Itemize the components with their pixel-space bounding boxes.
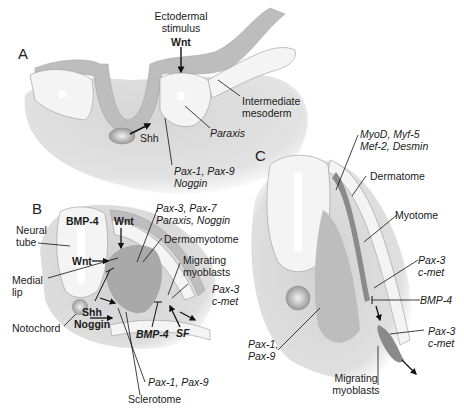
label-c-cmet-a: c-met bbox=[418, 266, 444, 278]
label-b-cmet: c-met bbox=[212, 295, 238, 307]
label-a-wnt: Wnt bbox=[171, 36, 191, 48]
label-a-noggin: Noggin bbox=[174, 177, 207, 189]
label-medial-lip-line1: Medial bbox=[12, 274, 43, 286]
label-b-bmp4-bottom: BMP-4 bbox=[136, 328, 169, 340]
label-c-pax3-a: Pax-3 bbox=[418, 254, 445, 266]
label-b-bmp4-top: BMP-4 bbox=[66, 215, 99, 227]
panel-c-notochord bbox=[286, 286, 310, 310]
label-b-pax3: Pax-3 bbox=[212, 283, 239, 295]
label-a-pax1-pax9: Pax-1, Pax-9 bbox=[174, 165, 235, 177]
label-b-migrating-line2: myoblasts bbox=[183, 266, 230, 278]
label-myotome: Myotome bbox=[395, 209, 438, 221]
label-c-bmp4: BMP-4 bbox=[420, 294, 452, 306]
label-ectodermal-stimulus-line2: stimulus bbox=[148, 22, 214, 34]
label-dermomyotome: Dermomyotome bbox=[164, 233, 239, 245]
label-dermatome: Dermatome bbox=[370, 170, 425, 182]
label-myod-line2: Mef-2, Desmin bbox=[360, 140, 428, 152]
label-b-shh: Shh bbox=[82, 306, 102, 318]
label-a-shh: Shh bbox=[140, 132, 159, 144]
label-neural-tube-line1: Neural bbox=[16, 224, 47, 236]
label-ectodermal-stimulus-line1: Ectodermal bbox=[148, 10, 214, 22]
label-notochord: Notochord bbox=[12, 322, 60, 334]
label-intermediate-mesoderm-line2: mesoderm bbox=[242, 107, 292, 119]
diagram-canvas bbox=[0, 0, 464, 410]
label-medial-lip-line2: lip bbox=[12, 286, 23, 298]
label-b-migrating-line1: Migrating bbox=[183, 254, 226, 266]
label-c-pax1: Pax-1, bbox=[248, 338, 278, 350]
label-b-wnt-mid: Wnt bbox=[72, 255, 92, 267]
label-pax3-pax7-line1: Pax-3, Pax-7 bbox=[156, 202, 217, 214]
panel-a-letter: A bbox=[18, 48, 28, 60]
label-sclerotome: Sclerotome bbox=[128, 393, 181, 405]
panel-a-notochord bbox=[109, 128, 135, 144]
label-myod-line1: MyoD, Myf-5 bbox=[360, 128, 420, 140]
label-c-migrating-line1: Migrating bbox=[326, 372, 386, 384]
label-b-noggin: Noggin bbox=[74, 318, 110, 330]
label-c-pax9: Pax-9 bbox=[248, 350, 275, 362]
label-c-pax3-b: Pax-3 bbox=[428, 325, 455, 337]
panel-c-letter: C bbox=[255, 150, 266, 162]
label-pax3-pax7-line2: Paraxis, Noggin bbox=[156, 214, 230, 226]
panel-b-letter: B bbox=[32, 203, 42, 215]
label-a-paraxis: Paraxis bbox=[210, 127, 245, 139]
label-c-migrating-line2: myoblasts bbox=[326, 384, 386, 396]
label-intermediate-mesoderm-line1: Intermediate bbox=[242, 95, 300, 107]
label-b-wnt-top: Wnt bbox=[114, 215, 134, 227]
label-b-pax1-pax9: Pax-1, Pax-9 bbox=[148, 376, 209, 388]
label-c-cmet-b: c-met bbox=[428, 337, 454, 349]
label-neural-tube-line2: tube bbox=[16, 236, 36, 248]
label-b-sf: SF bbox=[176, 327, 189, 339]
